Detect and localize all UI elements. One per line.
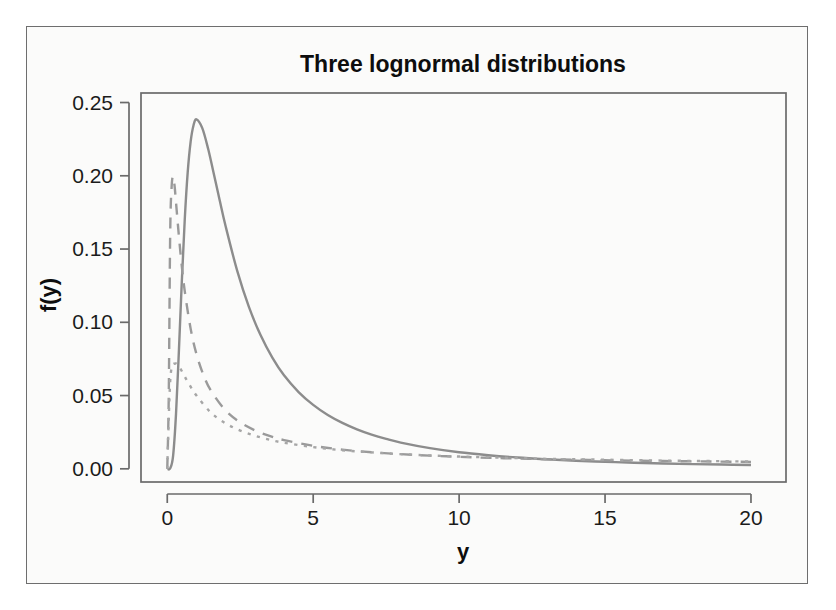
y-tick-label: 0.00 xyxy=(72,457,113,480)
x-tick-label: 15 xyxy=(593,506,616,529)
x-axis: 05101520 xyxy=(161,494,762,529)
x-tick-label: 5 xyxy=(307,506,319,529)
chart-title-group: Three lognormal distributions xyxy=(300,51,626,77)
y-tick-label: 0.10 xyxy=(72,310,113,333)
series-solid xyxy=(167,119,751,469)
y-tick-label: 0.25 xyxy=(72,91,113,114)
y-tick-label: 0.05 xyxy=(72,384,113,407)
x-tick-label: 10 xyxy=(447,506,470,529)
plot-area-box xyxy=(141,93,786,482)
data-series-group xyxy=(167,119,751,469)
plot-frame xyxy=(141,93,786,482)
chart-title: Three lognormal distributions xyxy=(300,51,626,77)
x-tick-label: 0 xyxy=(161,506,173,529)
chart-canvas: Three lognormal distributions 0.000.050.… xyxy=(0,0,836,610)
y-axis: 0.000.050.100.150.200.25 xyxy=(72,91,129,480)
x-tick-label: 20 xyxy=(739,506,762,529)
y-axis-title: f(y) xyxy=(36,278,61,312)
y-tick-label: 0.20 xyxy=(72,164,113,187)
x-axis-title: y xyxy=(457,539,470,564)
y-tick-label: 0.15 xyxy=(72,237,113,260)
figure-root: Three lognormal distributions 0.000.050.… xyxy=(0,0,836,610)
